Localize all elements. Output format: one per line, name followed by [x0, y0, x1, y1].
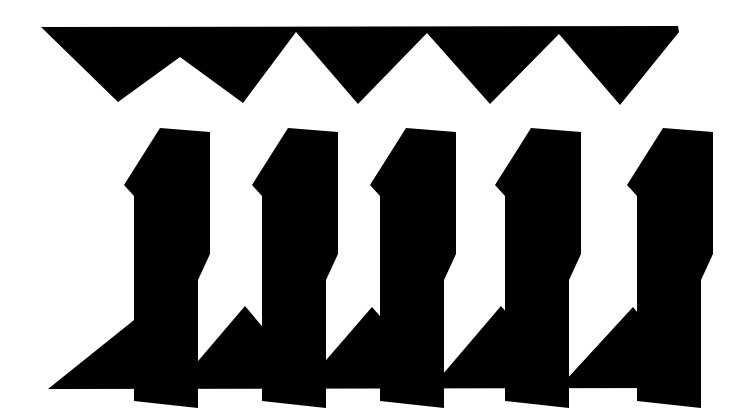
artboard: Black and white abstract graphic: a down… — [0, 0, 739, 413]
abstract-geometric-figure — [0, 0, 739, 413]
